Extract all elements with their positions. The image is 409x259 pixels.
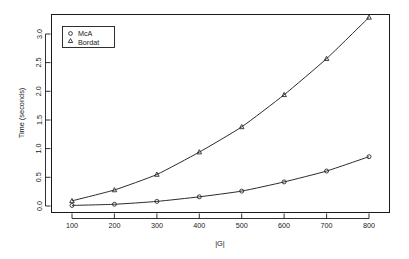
line-chart-canvas: 3.0 2.5 2.0 1.5 1.0 0.5 0.0 Time (second… (0, 0, 409, 259)
x-tick-label-700: 700 (321, 221, 333, 230)
y-tick-label-1.0: 1.0 (35, 144, 44, 154)
y-tick-label-0.5: 0.5 (35, 172, 44, 182)
chart-legend: McA Bordat (63, 27, 115, 48)
x-tick-label-500: 500 (236, 221, 248, 230)
chart-figure: 3.0 2.5 2.0 1.5 1.0 0.5 0.0 Time (second… (0, 0, 409, 259)
x-tick-label-800: 800 (363, 221, 375, 230)
y-tick-label-2.0: 2.0 (35, 86, 44, 96)
y-tick-label-3.0: 3.0 (35, 29, 44, 39)
legend-label-bordat: Bordat (78, 38, 99, 47)
y-tick-label-2.5: 2.5 (35, 58, 44, 68)
y-tick-label-1.5: 1.5 (35, 115, 44, 125)
x-tick-label-400: 400 (193, 221, 205, 230)
x-tick-label-600: 600 (278, 221, 290, 230)
x-tick-label-200: 200 (108, 221, 120, 230)
x-axis-title: |G| (215, 239, 225, 248)
x-tick-label-300: 300 (151, 221, 163, 230)
y-tick-label-0.0: 0.0 (35, 201, 44, 211)
y-axis-title: Time (seconds) (17, 88, 26, 139)
x-tick-label-100: 100 (66, 221, 78, 230)
